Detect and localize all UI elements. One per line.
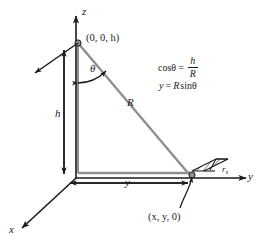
formula-fraction: h R (188, 56, 198, 79)
patch-size-label: rs (222, 165, 228, 176)
y-axis-label: y (248, 171, 253, 182)
formula-fraction-numerator: h (188, 56, 197, 67)
formula-cos-theta: cosθ = h R (158, 56, 198, 79)
formula-cos-equals: = (178, 62, 184, 74)
z-axis-label: z (82, 6, 86, 17)
apex-point-label: (0, 0, h) (86, 33, 119, 44)
formula-block: cosθ = h R y = R sinθ (158, 56, 198, 92)
apex-x-parallel-ray (35, 43, 78, 73)
ground-point-label: (x, y, 0) (148, 212, 181, 223)
x-axis-label: x (9, 224, 14, 235)
formula-y-rhs-r: R (173, 80, 179, 92)
formula-cos-lhs: cosθ (158, 62, 176, 74)
ground-point-leader-line (180, 177, 192, 208)
formula-y-equals-sign: = (166, 80, 172, 92)
coordinate-geometry-figure: z y x (0, 0, h) (x, y, 0) h y R θ rs cos… (0, 0, 260, 242)
height-label: h (55, 108, 61, 119)
formula-y-equals: y = R sinθ (158, 80, 198, 92)
ground-range-label: y (125, 177, 130, 188)
theta-angle-label: θ (90, 63, 95, 74)
slant-range-label: R (127, 97, 134, 108)
x-axis-line (22, 178, 76, 228)
formula-y-rhs-sin: sinθ (180, 80, 196, 92)
formula-fraction-denominator: R (188, 67, 198, 79)
formula-y-lhs: y (159, 80, 163, 92)
patch-size-subscript: s (226, 168, 229, 176)
figure-vector-graphics (0, 0, 260, 242)
